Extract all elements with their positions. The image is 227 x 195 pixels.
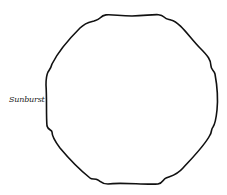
shape-label: Sunburst — [9, 95, 45, 104]
sunburst-shape — [46, 15, 217, 185]
